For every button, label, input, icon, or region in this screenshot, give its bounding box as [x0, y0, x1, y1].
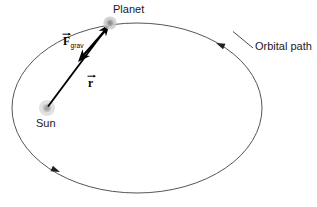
position-vector-glyph: r	[88, 77, 93, 89]
force-vector-glyph: F	[63, 35, 70, 47]
direction-arrow-lower-left-icon	[51, 166, 62, 175]
orbit-diagram: Planet Orbital path Sun F grav r	[0, 0, 317, 207]
force-vector-shaft	[81, 29, 107, 59]
orbit-diagram-canvas	[0, 0, 317, 207]
orbital-path-leader-line	[233, 32, 253, 49]
force-vector-subscript: grav	[71, 42, 84, 49]
sun-label: Sun	[36, 118, 56, 129]
force-vector-symbol: F	[63, 36, 70, 48]
direction-arrow-upper-right-icon	[215, 40, 226, 49]
planet-body	[106, 19, 114, 27]
position-vector-symbol: r	[88, 78, 93, 90]
position-vector-label: r	[88, 78, 93, 90]
orbital-path-label: Orbital path	[255, 41, 312, 52]
planet-label: Planet	[113, 4, 144, 15]
force-vector-label: F grav	[63, 36, 83, 48]
